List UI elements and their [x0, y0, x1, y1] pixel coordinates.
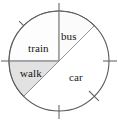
pie-label-car: car [69, 71, 83, 83]
pie-label-walk: walk [20, 67, 42, 79]
pie-label-bus: bus [61, 30, 77, 42]
pie-chart-svg [0, 0, 118, 123]
pie-label-train: train [28, 42, 49, 54]
pie-chart-figure: train bus car walk [0, 0, 118, 123]
